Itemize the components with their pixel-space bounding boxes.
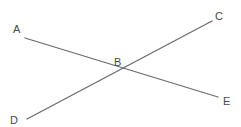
point-label-d: D <box>10 114 18 126</box>
point-label-a: A <box>13 23 21 35</box>
segment-dc <box>27 21 212 119</box>
point-label-c: C <box>215 10 223 22</box>
intersecting-lines-diagram: A B C D E <box>0 0 241 127</box>
point-label-b: B <box>114 56 121 68</box>
point-label-e: E <box>223 95 230 107</box>
diagram-canvas: A B C D E <box>0 0 241 127</box>
segment-ae <box>25 38 218 97</box>
